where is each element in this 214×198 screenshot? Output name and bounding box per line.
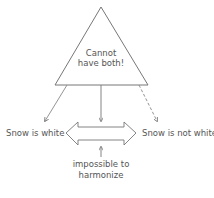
note-line-1: impossible to <box>73 159 130 169</box>
left-claim-label: Snow is white <box>6 128 64 138</box>
double-arrow-shape <box>66 122 136 145</box>
triangle-shape <box>55 7 148 85</box>
triangle-text-line-2: have both! <box>78 58 124 68</box>
left-arrow <box>45 85 67 121</box>
right-dashed-arrow <box>139 85 157 121</box>
right-claim-label: Snow is not white <box>142 128 214 138</box>
note-line-2: harmonize <box>79 170 124 180</box>
triangle-text-line-1: Cannot <box>86 48 116 58</box>
